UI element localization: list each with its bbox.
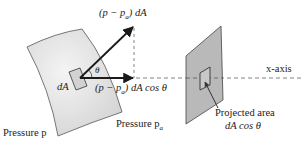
normal-force-tail: ) dA [129, 7, 147, 18]
projected-area-label-line2: dA cos θ [225, 121, 261, 132]
pressure-pa-text: Pressure p [116, 118, 159, 129]
x-axis-label: x-axis [266, 64, 292, 75]
x-component-tail: ) dA cos θ [125, 82, 167, 93]
x-component-text: (p − p [95, 82, 121, 93]
pressure-p-label: Pressure p [3, 128, 46, 139]
x-component-label: (p − pa) dA cos θ [95, 83, 167, 96]
pressure-pa-subscript: a [159, 124, 163, 132]
pressure-pa-label: Pressure pa [116, 119, 163, 132]
projected-area-label-line1: Projected area [215, 108, 275, 119]
normal-force-label: (p − pa) dA [99, 8, 147, 21]
theta-label: θ [95, 66, 99, 75]
dA-label: dA [57, 82, 69, 93]
normal-force-text: (p − p [99, 7, 125, 18]
